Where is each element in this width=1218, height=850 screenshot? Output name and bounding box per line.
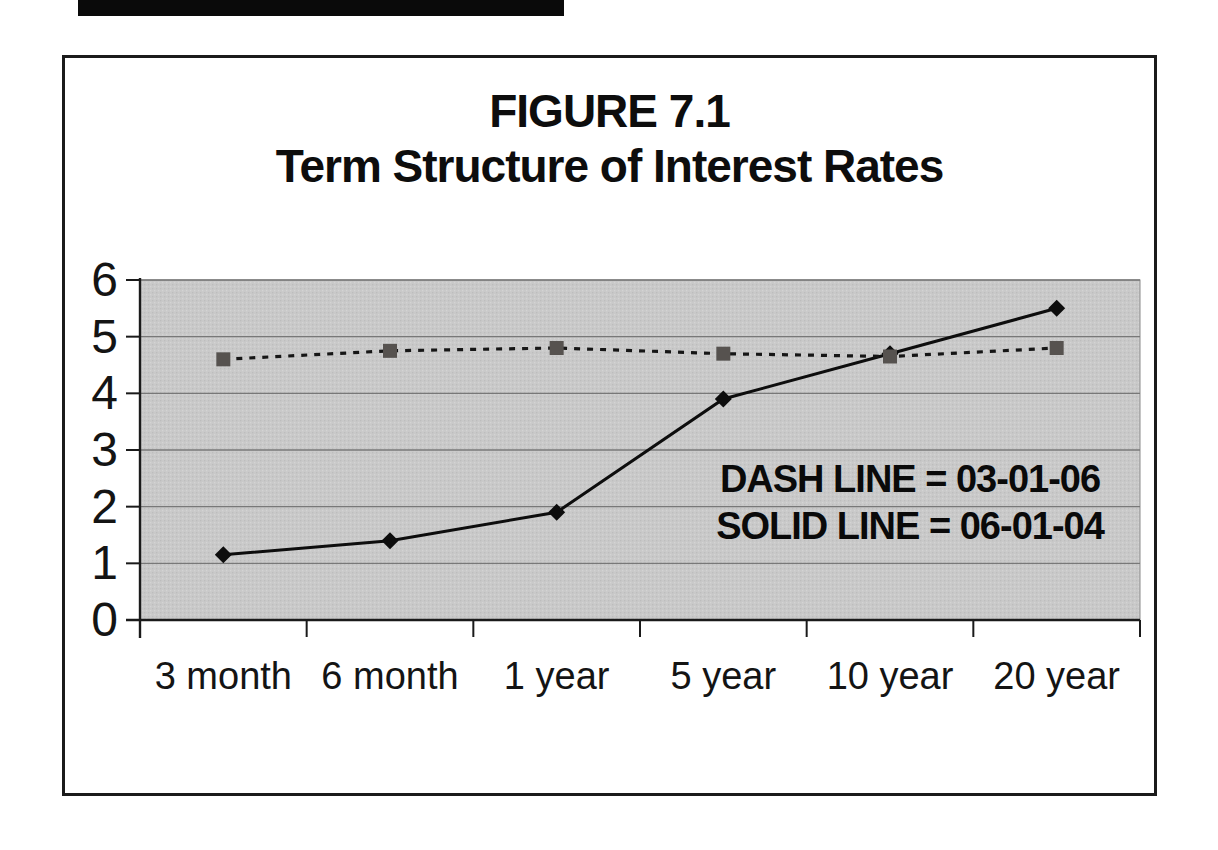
- chart-canvas: [0, 0, 1218, 850]
- marker-square: [883, 350, 897, 364]
- y-axis-label: 3: [38, 423, 118, 477]
- legend-dash-line-label: DASH LINE = 03-01-06: [700, 456, 1120, 503]
- marker-square: [1050, 341, 1064, 355]
- legend-solid-line-label: SOLID LINE = 06-01-04: [700, 503, 1120, 550]
- y-axis-label: 2: [38, 480, 118, 534]
- marker-square: [716, 347, 730, 361]
- y-axis-label: 1: [38, 536, 118, 590]
- x-axis-label: 20 year: [947, 654, 1167, 698]
- scanned-figure-page: FIGURE 7.1 Term Structure of Interest Ra…: [0, 0, 1218, 850]
- marker-square: [383, 344, 397, 358]
- y-axis-label: 5: [38, 310, 118, 364]
- y-axis-label: 4: [38, 366, 118, 420]
- marker-square: [550, 341, 564, 355]
- legend-annotation-box: DASH LINE = 03-01-06 SOLID LINE = 06-01-…: [700, 456, 1120, 550]
- marker-square: [216, 352, 230, 366]
- y-axis-label: 0: [38, 593, 118, 647]
- y-axis-label: 6: [38, 253, 118, 307]
